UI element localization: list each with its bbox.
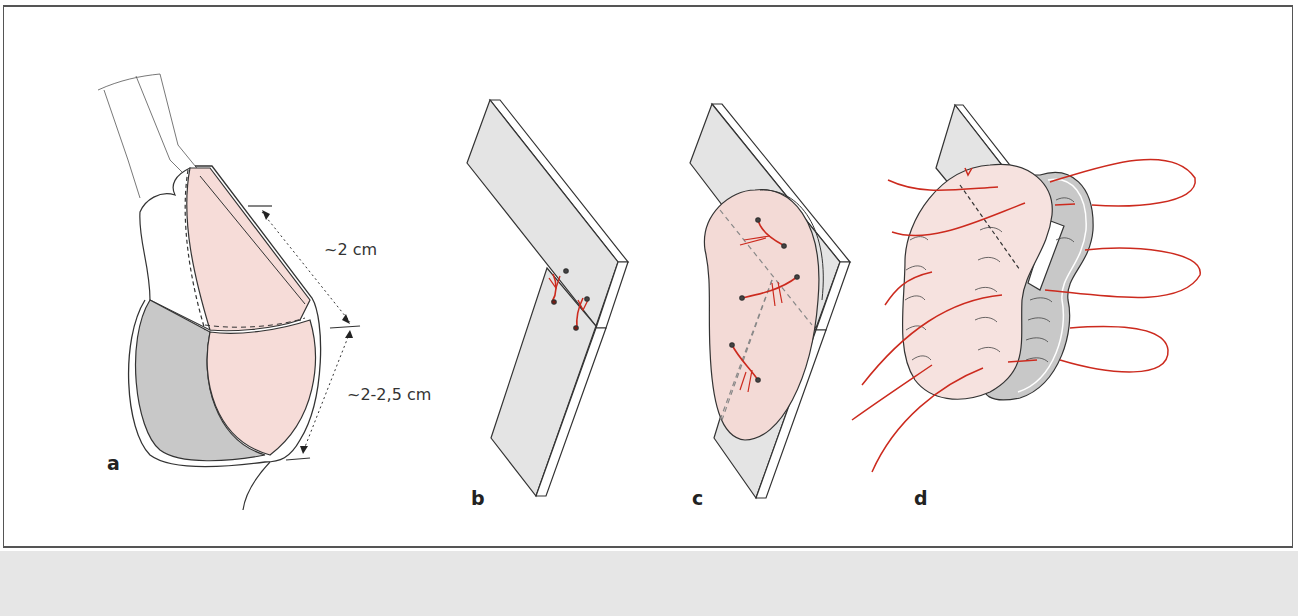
dimension-lower-label: ~2-2,5 cm	[347, 385, 431, 404]
dimension-upper-label: ~2 cm	[324, 240, 377, 259]
panel-b-plate	[467, 100, 628, 496]
panel-a-drawing	[98, 74, 360, 510]
panel-d-rolled-flap	[852, 105, 1200, 472]
panel-label-b: b	[471, 487, 485, 509]
panel-c-plate-and-flap	[690, 104, 850, 498]
figure-illustration	[0, 0, 1298, 616]
panel-label-a: a	[107, 452, 120, 474]
panel-label-d: d	[914, 487, 928, 509]
panel-label-c: c	[692, 487, 703, 509]
